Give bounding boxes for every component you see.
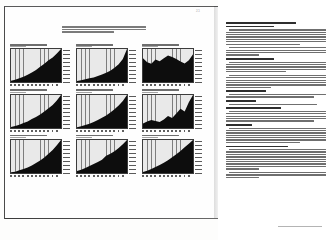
y-tick-label bbox=[129, 104, 136, 105]
plot-area-wrapper bbox=[142, 94, 204, 129]
y-tick-label bbox=[63, 149, 70, 150]
text-line bbox=[226, 137, 326, 138]
y-tick-label bbox=[195, 141, 202, 142]
plot-area bbox=[10, 48, 62, 83]
y-tick-label bbox=[195, 104, 202, 105]
chart-subtitle bbox=[142, 137, 158, 138]
text-line bbox=[226, 69, 326, 70]
text-line bbox=[229, 104, 317, 105]
y-tick-label bbox=[63, 173, 70, 174]
y-axis-tick-labels bbox=[62, 50, 72, 83]
text-line bbox=[229, 172, 326, 173]
plot-area-wrapper bbox=[142, 48, 204, 83]
y-tick-label bbox=[63, 82, 70, 83]
chart-subtitle bbox=[76, 137, 92, 138]
section-heading bbox=[226, 58, 274, 60]
y-tick-label bbox=[129, 161, 136, 162]
footer-rule bbox=[278, 226, 322, 227]
y-tick-label bbox=[195, 108, 202, 109]
y-tick-label bbox=[63, 169, 70, 170]
y-tick-label bbox=[129, 116, 136, 117]
y-tick-label bbox=[129, 78, 136, 79]
y-tick-label bbox=[63, 165, 70, 166]
y-tick-label bbox=[129, 120, 136, 121]
text-line bbox=[226, 84, 326, 85]
text-line bbox=[226, 132, 326, 133]
data-series-area bbox=[143, 95, 193, 128]
plot-area-wrapper bbox=[76, 139, 138, 174]
text-line bbox=[226, 161, 326, 162]
y-tick-label bbox=[63, 66, 70, 67]
x-axis-tick-labels bbox=[76, 175, 126, 177]
text-line bbox=[229, 111, 326, 112]
text-line bbox=[226, 71, 286, 72]
section-heading bbox=[226, 107, 281, 109]
section-heading bbox=[226, 22, 296, 24]
y-tick-label bbox=[195, 100, 202, 101]
section-heading bbox=[226, 124, 252, 126]
text-line bbox=[226, 44, 300, 45]
y-tick-label bbox=[63, 100, 70, 101]
chart-subtitle bbox=[10, 137, 26, 138]
x-axis-tick-labels bbox=[76, 84, 126, 86]
y-tick-label bbox=[195, 145, 202, 146]
text-line bbox=[226, 177, 259, 178]
chart-7 bbox=[10, 135, 72, 177]
text-line bbox=[226, 113, 326, 114]
text-line bbox=[62, 31, 114, 33]
section-heading bbox=[226, 26, 274, 28]
paragraph bbox=[226, 29, 326, 45]
plot-area-wrapper bbox=[76, 48, 138, 83]
text-line bbox=[226, 66, 326, 67]
text-line bbox=[226, 168, 259, 169]
y-tick-label bbox=[63, 96, 70, 97]
y-tick-label bbox=[63, 120, 70, 121]
text-line bbox=[229, 29, 326, 30]
text-line bbox=[229, 128, 326, 129]
x-axis-tick-labels bbox=[142, 84, 192, 86]
section-heading bbox=[226, 90, 266, 92]
text-line bbox=[226, 54, 259, 55]
text-line bbox=[229, 94, 326, 95]
y-tick-label bbox=[129, 82, 136, 83]
paragraph bbox=[226, 75, 326, 88]
paragraph bbox=[226, 172, 326, 178]
text-line bbox=[62, 26, 146, 28]
plot-area bbox=[76, 139, 128, 174]
y-tick-label bbox=[195, 112, 202, 113]
text-line bbox=[226, 39, 326, 40]
text-line bbox=[226, 163, 326, 164]
text-line bbox=[226, 82, 326, 83]
intro-paragraph bbox=[62, 26, 146, 34]
paragraph bbox=[226, 47, 326, 56]
text-line bbox=[226, 64, 326, 65]
y-tick-label bbox=[129, 145, 136, 146]
y-tick-label bbox=[63, 78, 70, 79]
plot-area bbox=[10, 94, 62, 129]
scanned-page-spread: 23 bbox=[0, 0, 330, 236]
y-tick-label bbox=[63, 50, 70, 51]
y-tick-label bbox=[129, 58, 136, 59]
chart-6 bbox=[142, 89, 204, 131]
paragraph bbox=[226, 104, 326, 105]
y-tick-label bbox=[195, 153, 202, 154]
y-axis-tick-labels bbox=[128, 141, 138, 174]
chart-subtitle bbox=[10, 92, 26, 93]
y-axis-tick-labels bbox=[194, 96, 204, 129]
y-tick-label bbox=[63, 108, 70, 109]
y-tick-label bbox=[195, 149, 202, 150]
data-series-area bbox=[77, 49, 127, 82]
y-tick-label bbox=[195, 169, 202, 170]
y-tick-label bbox=[195, 66, 202, 67]
y-tick-label bbox=[195, 96, 202, 97]
text-line bbox=[62, 29, 146, 31]
text-line bbox=[226, 50, 326, 51]
y-axis-tick-labels bbox=[62, 141, 72, 174]
y-tick-label bbox=[195, 82, 202, 83]
data-series-area bbox=[11, 95, 61, 128]
y-tick-label bbox=[129, 165, 136, 166]
plot-area bbox=[76, 48, 128, 83]
chart-subtitle bbox=[76, 92, 92, 93]
plot-area-wrapper bbox=[10, 48, 72, 83]
y-tick-label bbox=[63, 54, 70, 55]
